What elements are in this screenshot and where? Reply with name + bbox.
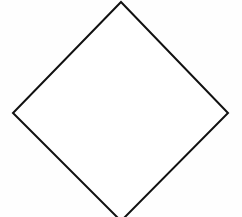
diagram-canvas [0,0,242,217]
diagram-svg [0,0,242,217]
decision-diamond-shape [13,2,228,217]
